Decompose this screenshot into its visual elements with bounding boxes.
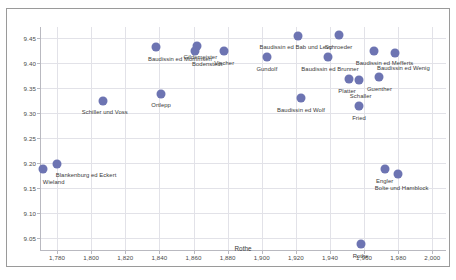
data-point-label: Gundolf	[256, 66, 277, 72]
data-point-marker[interactable]	[355, 76, 364, 85]
data-point-marker[interactable]	[293, 31, 302, 40]
data-point-label: Ortlepp	[151, 102, 171, 108]
y-tick-mark	[37, 38, 40, 39]
y-tick-label: 9.45	[24, 35, 36, 42]
data-point-marker[interactable]	[390, 48, 399, 57]
y-tick-label: 9.35	[24, 85, 36, 92]
x-tick-mark	[159, 251, 160, 254]
data-point-marker[interactable]	[220, 47, 229, 56]
y-tick-mark	[37, 163, 40, 164]
data-point-label: Schroeder	[325, 44, 353, 50]
data-point-label: Rothe	[353, 253, 369, 259]
gridline-horizontal	[40, 213, 446, 214]
data-point-label: Schaller	[350, 93, 372, 99]
y-tick-label: 9.25	[24, 135, 36, 142]
data-point-marker[interactable]	[324, 53, 333, 62]
data-point-marker[interactable]	[39, 165, 48, 174]
data-point-marker[interactable]	[334, 31, 343, 40]
x-tick-mark	[194, 251, 195, 254]
x-tick-mark	[398, 251, 399, 254]
y-tick-mark	[37, 88, 40, 89]
y-tick-label: 9.40	[24, 60, 36, 67]
data-point-label: Wieland	[43, 179, 65, 185]
y-tick-label: 9.05	[24, 235, 36, 242]
x-tick-label: 1,820	[117, 254, 133, 261]
x-tick-label: 1,880	[220, 254, 236, 261]
data-point-marker[interactable]	[380, 165, 389, 174]
data-point-label: Blankenburg ed Eckert	[56, 172, 117, 178]
data-point-marker[interactable]	[394, 170, 403, 179]
data-point-marker[interactable]	[370, 47, 379, 56]
x-tick-mark	[125, 251, 126, 254]
data-point-label: Bolte und Hamblock	[375, 185, 429, 191]
data-point-marker[interactable]	[152, 43, 161, 52]
x-tick-mark	[330, 251, 331, 254]
data-point-label: Engler	[376, 178, 393, 184]
y-tick-label: 9.30	[24, 110, 36, 117]
data-point-label: Vischer	[214, 60, 234, 66]
x-tick-label: 1,980	[390, 254, 406, 261]
y-tick-mark	[37, 238, 40, 239]
data-point-label: Baudissin ed Brunner	[301, 66, 358, 72]
y-tick-mark	[37, 213, 40, 214]
data-point-marker[interactable]	[356, 240, 365, 249]
data-point-label: Fried	[352, 115, 366, 121]
x-tick-mark	[262, 251, 263, 254]
gridline-horizontal	[40, 238, 446, 239]
gridline-horizontal	[40, 38, 446, 39]
x-tick-mark	[432, 251, 433, 254]
chart-frame: 9.459.409.359.309.259.209.159.109.05 1,7…	[6, 8, 450, 267]
y-tick-mark	[37, 138, 40, 139]
y-tick-label: 9.10	[24, 210, 36, 217]
data-point-marker[interactable]	[375, 73, 384, 82]
data-point-marker[interactable]	[99, 96, 108, 105]
x-tick-label: 1,920	[288, 254, 304, 261]
x-tick-label: 1,860	[186, 254, 202, 261]
x-tick-label: 1,840	[151, 254, 167, 261]
x-tick-label: 1,800	[83, 254, 99, 261]
x-tick-label: 1,940	[322, 254, 338, 261]
y-tick-label: 9.20	[24, 160, 36, 167]
plot-area: 9.459.409.359.309.259.209.159.109.05 1,7…	[40, 27, 446, 251]
data-point-label: Gildemeister	[184, 54, 218, 60]
data-point-label: Baudissin ed Wenig	[377, 65, 430, 71]
data-point-label: Schiller und Voss	[82, 109, 128, 115]
y-tick-mark	[37, 113, 40, 114]
y-tick-label: 9.15	[24, 185, 36, 192]
data-point-marker[interactable]	[53, 160, 62, 169]
data-point-marker[interactable]	[191, 47, 200, 56]
x-tick-label: 1,900	[254, 254, 270, 261]
x-tick-label: 1,780	[49, 254, 65, 261]
data-point-marker[interactable]	[355, 102, 364, 111]
data-point-label: Baudissin ed Wolf	[277, 107, 325, 113]
y-axis-line	[40, 27, 41, 251]
x-tick-mark	[91, 251, 92, 254]
data-point-marker[interactable]	[157, 90, 166, 99]
x-tick-mark	[296, 251, 297, 254]
data-point-marker[interactable]	[262, 53, 271, 62]
x-tick-label: 2,000	[424, 254, 440, 261]
y-tick-mark	[37, 63, 40, 64]
data-point-marker[interactable]	[344, 75, 353, 84]
data-point-label: Baudissin ed Bab und Levy	[260, 44, 333, 50]
x-tick-mark	[57, 251, 58, 254]
data-point-label: Guenther	[367, 86, 392, 92]
gridline-horizontal	[40, 138, 446, 139]
y-tick-mark	[37, 188, 40, 189]
data-point-marker[interactable]	[297, 94, 306, 103]
x-axis-title: Rothe	[234, 245, 251, 252]
x-tick-mark	[228, 251, 229, 254]
scatter-chart: 9.459.409.359.309.259.209.159.109.05 1,7…	[0, 0, 456, 280]
